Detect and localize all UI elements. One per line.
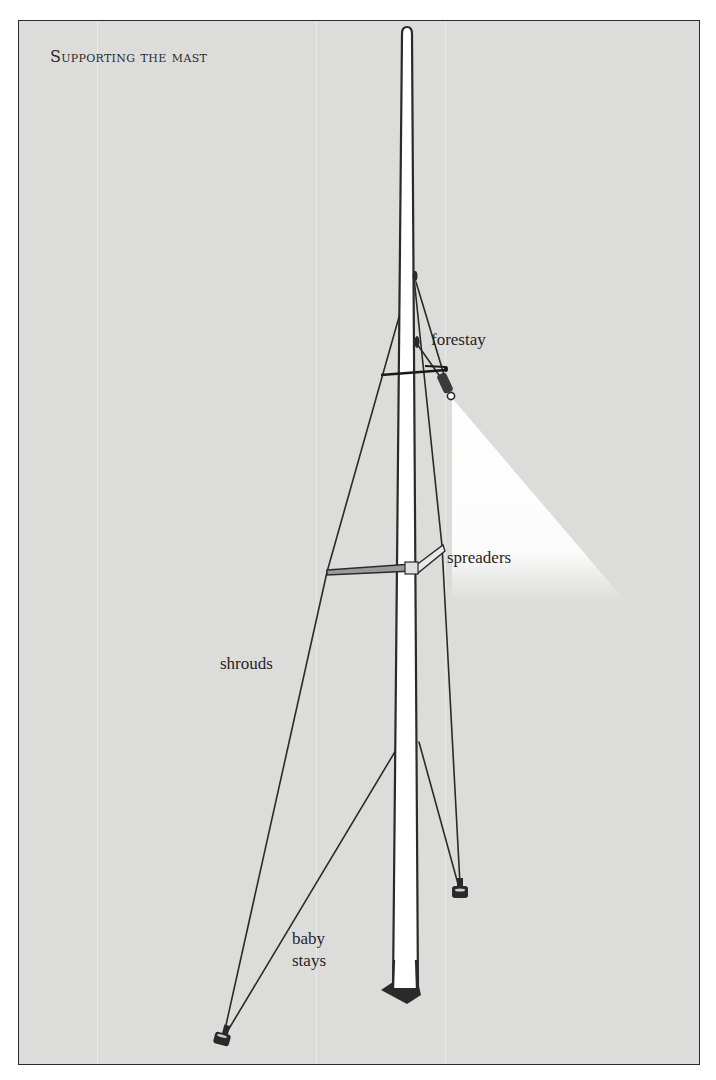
forestay-tang	[415, 336, 420, 348]
label-shrouds: shrouds	[220, 653, 273, 675]
figure-title: Supporting the mast	[50, 47, 207, 66]
chainplate-left	[213, 1024, 232, 1046]
label-baby-stays: baby stays	[292, 928, 326, 972]
mast-foot	[394, 960, 416, 988]
label-spreaders: spreaders	[447, 547, 511, 569]
lower-shroud-right	[419, 742, 458, 884]
label-baby-line2: stays	[292, 950, 326, 972]
mast-rigging-diagram	[0, 0, 716, 1080]
spreaders	[327, 545, 445, 575]
forestay-light-wedge	[452, 398, 626, 602]
baby-stay	[227, 730, 408, 1032]
label-baby-line1: baby	[292, 928, 326, 950]
chainplate-right	[452, 878, 468, 898]
masthead-tang	[413, 271, 418, 281]
label-forestay: forestay	[431, 329, 486, 351]
mast	[393, 27, 418, 990]
forestay-turnbuckle	[436, 372, 454, 400]
